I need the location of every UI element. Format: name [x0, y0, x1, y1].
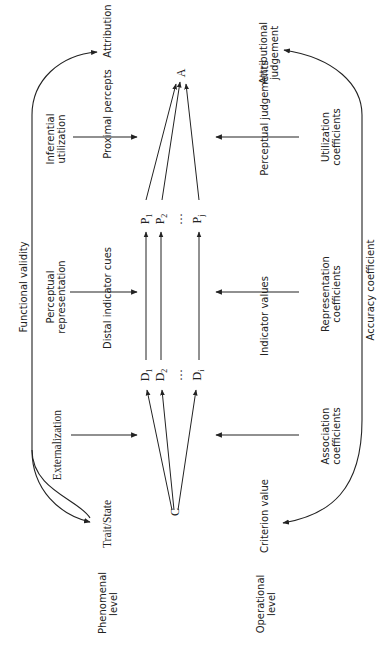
p2-to-a-arrow: [162, 82, 180, 200]
association-coefficients-label: Association coefficients: [320, 402, 342, 470]
node-d1: D1: [138, 369, 154, 382]
externalization-label: Externalization: [51, 410, 63, 480]
node-p2-base: P: [153, 218, 167, 225]
node-criterion-c: C: [168, 508, 183, 516]
accuracy-coefficient-label: Accuracy coefficient: [365, 240, 376, 341]
indicator-values-label: Indicator values: [259, 276, 270, 356]
pj-to-a-arrow: [186, 84, 199, 200]
node-pj-sub: j: [197, 215, 206, 217]
node-d2: D2: [153, 369, 169, 382]
inferential-utilization-label: Inferential utilization: [45, 110, 67, 168]
node-d-ellipsis: …: [171, 369, 186, 381]
node-di-base: D: [190, 372, 204, 381]
node-di: Di: [190, 370, 206, 381]
node-d1-base: D: [138, 373, 152, 382]
proximal-percepts-label: Proximal percepts: [102, 69, 113, 159]
node-d2-base: D: [153, 373, 167, 382]
c-to-di-arrow: [178, 390, 196, 510]
phenomenal-level-label: Phenomenal level: [97, 574, 119, 634]
node-p1-base: P: [138, 218, 152, 225]
node-d2-sub: 2: [160, 369, 169, 373]
node-p-ellipsis: …: [171, 213, 186, 225]
node-pj: Pj: [190, 215, 206, 224]
distal-indicator-cues-label: Distal indicator cues: [102, 247, 113, 349]
trait-state-label: Trait/State: [101, 500, 113, 548]
operational-level-label: Operational level: [255, 574, 277, 634]
node-p2-sub: 2: [160, 214, 169, 218]
utilization-coefficients-label: Utilization coefficients: [320, 106, 342, 168]
node-p1: P1: [138, 214, 154, 225]
representation-coefficients-label: Representation coefficients: [320, 253, 342, 335]
perceptual-representation-label: Perceptual representation: [45, 256, 67, 338]
attributional-judgement-label: Attributional judgement: [258, 20, 280, 86]
functional-validity-label: Functional validity: [18, 241, 29, 332]
node-attribution-a: A: [174, 69, 189, 78]
node-pj-base: P: [190, 217, 204, 224]
node-di-sub: i: [197, 370, 206, 372]
criterion-value-label: Criterion value: [259, 479, 270, 553]
p1-to-a-arrow: [146, 84, 176, 200]
node-p2: P2: [153, 214, 169, 225]
attribution-label: Attribution: [102, 4, 113, 57]
